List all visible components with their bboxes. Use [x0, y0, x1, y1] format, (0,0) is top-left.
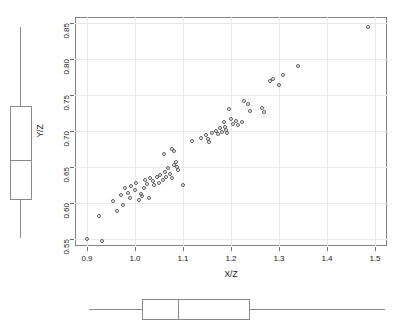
boxplot-x-upper-whisker	[250, 309, 384, 310]
data-point	[366, 25, 370, 29]
y-axis-tick-label: 0.55	[63, 239, 72, 255]
data-point	[248, 109, 252, 113]
boxplot-x-box	[142, 299, 250, 320]
data-point	[134, 181, 138, 185]
y-axis-title: Y/Z	[35, 124, 45, 137]
boxplot-y-median	[10, 160, 32, 161]
data-point	[119, 193, 123, 197]
data-point	[162, 152, 166, 156]
boxplot-y-upper-whisker	[20, 27, 21, 106]
data-point	[176, 168, 180, 172]
boxplot-x-median	[178, 299, 179, 320]
y-axis-tick-label: 0.65	[63, 167, 72, 183]
marginal-boxplot-y	[6, 17, 36, 246]
marginal-boxplot-x	[75, 296, 387, 324]
data-point	[142, 186, 146, 190]
data-point	[140, 194, 144, 198]
data-point	[123, 186, 127, 190]
data-point	[227, 107, 231, 111]
data-points-layer	[75, 17, 387, 246]
x-axis-tick	[87, 247, 88, 251]
data-point	[174, 160, 178, 164]
x-axis-title: X/Z	[224, 269, 237, 279]
data-point	[145, 182, 149, 186]
x-axis-tick-label: 1.1	[177, 254, 188, 263]
data-point	[143, 178, 147, 182]
x-axis-tick-label: 1.0	[129, 254, 140, 263]
data-point	[100, 239, 104, 243]
data-point	[271, 77, 275, 81]
y-axis-tick-label: 0.60	[63, 203, 72, 219]
data-point	[115, 209, 119, 213]
boxplot-x-lower-whisker	[89, 309, 142, 310]
data-point	[133, 188, 137, 192]
data-point	[262, 110, 266, 114]
x-axis-tick	[135, 247, 136, 251]
x-axis-tick-label: 1.5	[369, 254, 380, 263]
data-point	[97, 214, 101, 218]
data-point	[240, 120, 244, 124]
data-point	[281, 73, 285, 77]
data-point	[158, 173, 162, 177]
data-point	[172, 149, 176, 153]
x-axis-tick-label: 1.4	[321, 254, 332, 263]
data-point	[152, 183, 156, 187]
y-axis-tick-label: 0.70	[63, 131, 72, 147]
data-point	[277, 83, 281, 87]
y-axis-tick-label: 0.75	[63, 95, 72, 111]
data-point	[199, 136, 203, 140]
scatterplot-with-marginal-boxplots: 0.550.600.650.700.750.800.850.91.01.11.2…	[0, 0, 404, 329]
data-point	[222, 120, 226, 124]
data-point	[246, 102, 250, 106]
y-axis-tick-label: 0.80	[63, 59, 72, 75]
x-axis-tick	[375, 247, 376, 251]
data-point	[121, 203, 125, 207]
x-axis-tick-label: 0.9	[81, 254, 92, 263]
data-point	[85, 237, 89, 241]
x-axis-tick	[231, 247, 232, 251]
data-point	[129, 184, 133, 188]
x-axis-tick-label: 1.2	[225, 254, 236, 263]
x-axis-tick-label: 1.3	[273, 254, 284, 263]
data-point	[128, 196, 132, 200]
y-axis-tick-label: 0.85	[63, 23, 72, 39]
scatter-plot-area	[75, 17, 387, 246]
data-point	[207, 140, 211, 144]
data-point	[137, 198, 141, 202]
data-point	[170, 176, 174, 180]
x-axis-tick	[183, 247, 184, 251]
data-point	[225, 131, 229, 135]
data-point	[296, 64, 300, 68]
data-point	[126, 191, 130, 195]
data-point	[163, 170, 167, 174]
x-axis-tick	[279, 247, 280, 251]
data-point	[166, 166, 170, 170]
data-point	[111, 199, 115, 203]
data-point	[236, 123, 240, 127]
x-axis-tick	[327, 247, 328, 251]
data-point	[147, 196, 151, 200]
data-point	[229, 117, 233, 121]
data-point	[181, 183, 185, 187]
data-point	[161, 178, 165, 182]
boxplot-y-lower-whisker	[20, 200, 21, 239]
data-point	[190, 139, 194, 143]
data-point	[216, 132, 220, 136]
boxplot-y-box	[10, 106, 32, 200]
